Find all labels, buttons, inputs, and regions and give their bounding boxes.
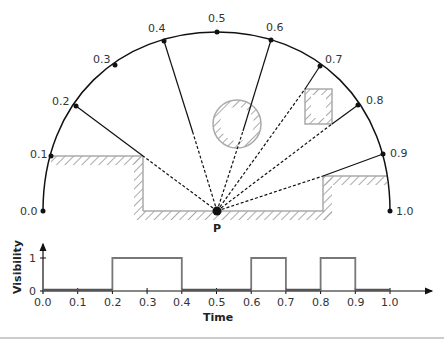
y-tick-1: 1 bbox=[29, 252, 36, 265]
x-tick-0-0: 0.0 bbox=[34, 296, 52, 309]
arc-label-0-9: 0.9 bbox=[390, 147, 408, 160]
center-point bbox=[213, 207, 222, 216]
obstacle-floor bbox=[134, 211, 332, 220]
arc-label-1-0: 1.0 bbox=[396, 205, 414, 218]
visibility-diagram: 0.0 0.1 0.2 0.3 0.4 0.5 0.6 0.7 0.8 0.9 … bbox=[0, 0, 444, 344]
arc-label-0-0: 0.0 bbox=[20, 205, 38, 218]
obstacle-left-wall bbox=[134, 156, 143, 211]
x-tick-0-4: 0.4 bbox=[173, 296, 191, 309]
arc-label-0-1: 0.1 bbox=[30, 148, 48, 161]
x-tick-0-7: 0.7 bbox=[277, 296, 295, 309]
x-tick-0-2: 0.2 bbox=[104, 296, 122, 309]
arc-label-0-5: 0.5 bbox=[208, 12, 226, 25]
x-axis-title: Time bbox=[203, 311, 233, 324]
x-tick-0-8: 0.8 bbox=[312, 296, 330, 309]
obstacles bbox=[51, 89, 387, 220]
arc-label-0-8: 0.8 bbox=[366, 94, 384, 107]
diagram-canvas: 0.0 0.1 0.2 0.3 0.4 0.5 0.6 0.7 0.8 0.9 … bbox=[0, 0, 444, 344]
obstacle-right-ledge bbox=[323, 176, 387, 185]
y-axis-title: Visibility bbox=[11, 240, 24, 294]
center-label: P bbox=[213, 222, 221, 235]
x-tick-0-6: 0.6 bbox=[243, 296, 261, 309]
x-tick-0-9: 0.9 bbox=[347, 296, 365, 309]
arc-label-0-4: 0.4 bbox=[148, 22, 166, 35]
x-tick-0-1: 0.1 bbox=[69, 296, 87, 309]
x-tick-0-5: 0.5 bbox=[208, 296, 226, 309]
arc-label-0-3: 0.3 bbox=[93, 53, 111, 66]
arc-label-0-7: 0.7 bbox=[325, 53, 343, 66]
x-tick-1-0: 1.0 bbox=[381, 296, 399, 309]
obstacle-left-ledge bbox=[51, 156, 143, 165]
visibility-step-line bbox=[43, 258, 390, 290]
x-tick-0-3: 0.3 bbox=[139, 296, 157, 309]
x-tick-labels: 0.0 0.1 0.2 0.3 0.4 0.5 0.6 0.7 0.8 0.9 … bbox=[34, 296, 399, 309]
arc-label-0-2: 0.2 bbox=[52, 95, 70, 108]
visibility-chart: 1 0 0.0 0.1 0.2 0.3 0.4 0.5 bbox=[11, 240, 432, 324]
arc-label-0-6: 0.6 bbox=[266, 21, 284, 34]
